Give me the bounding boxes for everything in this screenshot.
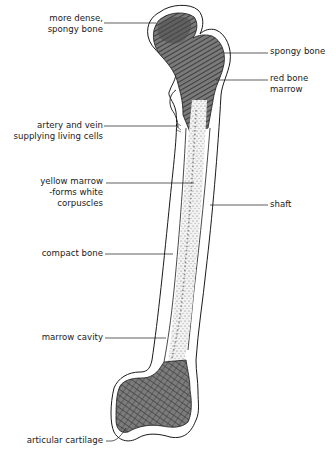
- label-line: yellow marrow: [40, 176, 103, 187]
- label-line: spongy bone: [48, 24, 103, 35]
- label-line: compact bone: [42, 248, 103, 259]
- label-spongy-bone: spongy bone: [270, 46, 325, 57]
- label-line: articular cartilage: [27, 435, 103, 446]
- label-line: marrow cavity: [42, 332, 103, 343]
- label-artery-and-vein: artery and vein supplying living cells: [14, 120, 103, 142]
- label-line: marrow: [270, 84, 308, 95]
- label-line: -forms white: [40, 187, 103, 198]
- label-yellow-marrow: yellow marrow -forms white corpuscles: [40, 176, 103, 209]
- femur-diagram: [0, 0, 336, 457]
- label-articular-cartilage: articular cartilage: [27, 435, 103, 446]
- label-compact-bone: compact bone: [42, 248, 103, 259]
- label-line: red bone: [270, 73, 308, 84]
- label-line: more dense,: [48, 13, 103, 24]
- label-red-bone-marrow: red bone marrow: [270, 73, 308, 95]
- label-line: supplying living cells: [14, 131, 103, 142]
- label-line: shaft: [270, 199, 291, 210]
- label-line: artery and vein: [14, 120, 103, 131]
- label-more-dense-spongy-bone: more dense, spongy bone: [48, 13, 103, 35]
- label-line: spongy bone: [270, 46, 325, 57]
- label-shaft: shaft: [270, 199, 291, 210]
- label-marrow-cavity: marrow cavity: [42, 332, 103, 343]
- label-line: corpuscles: [40, 198, 103, 209]
